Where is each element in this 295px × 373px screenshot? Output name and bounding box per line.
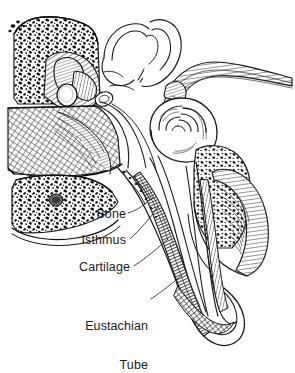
levator-veli-palatini-muscle	[8, 106, 122, 177]
label-eustachian-line1: Eustachian	[38, 320, 148, 333]
label-eustachian-tube: Eustachian Tube	[38, 294, 148, 373]
label-isthmus: Isthmus	[38, 234, 126, 247]
semicircular-canals	[102, 20, 181, 90]
label-eustachian-line2: Tube	[38, 359, 148, 372]
label-cartilage: Cartilage	[38, 261, 130, 274]
leader-line-cartilage	[134, 239, 168, 266]
pterygoid-plate	[188, 146, 268, 276]
label-bone: Bone	[38, 208, 126, 221]
